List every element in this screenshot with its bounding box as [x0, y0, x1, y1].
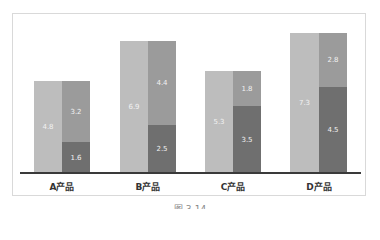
bar-b-top: 4.4 [148, 41, 176, 125]
bar-c-bottom: 3.5 [233, 106, 261, 173]
label-c-top: 1.8 [241, 85, 252, 93]
bar-c-top: 1.8 [233, 71, 261, 106]
x-tick-d: D产品 [289, 180, 349, 193]
figure-caption: 图 3-14 [0, 202, 380, 209]
label-b-top: 4.4 [156, 79, 167, 87]
label-a-top: 3.2 [70, 108, 81, 116]
bar-a-total: 4.8 [34, 81, 62, 173]
bar-d-top: 2.8 [319, 33, 347, 87]
x-tick-a: A产品 [32, 180, 92, 193]
bar-b-total: 6.9 [120, 41, 148, 173]
label-c-total: 5.3 [213, 118, 224, 126]
x-tick-b: B产品 [118, 180, 178, 193]
label-c-bottom: 3.5 [241, 136, 252, 144]
x-axis-line [20, 172, 361, 174]
bar-c-total: 5.3 [205, 71, 233, 173]
bar-b-bottom: 2.5 [148, 125, 176, 173]
label-a-total: 4.8 [42, 123, 53, 131]
label-b-bottom: 2.5 [156, 145, 167, 153]
bar-d-bottom: 4.5 [319, 87, 347, 173]
bar-d-total: 7.3 [290, 33, 319, 173]
label-d-total: 7.3 [299, 99, 310, 107]
label-b-total: 6.9 [128, 103, 139, 111]
bar-a-top: 3.2 [62, 81, 90, 142]
label-d-top: 2.8 [327, 56, 338, 64]
x-tick-c: C产品 [203, 180, 263, 193]
bar-a-bottom: 1.6 [62, 142, 90, 173]
label-d-bottom: 4.5 [327, 126, 338, 134]
label-a-bottom: 1.6 [70, 154, 81, 162]
